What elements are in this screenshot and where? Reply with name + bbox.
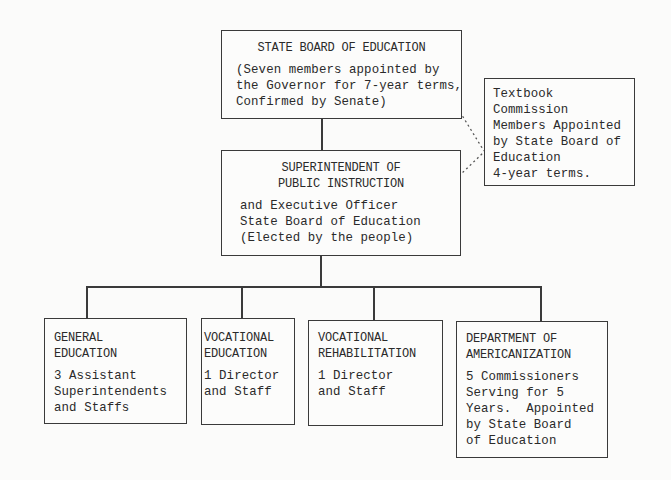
americanization-line-1: 5 Commissioners	[466, 369, 607, 385]
vocational-education-line-1: 1 Director	[204, 368, 294, 384]
general-education-line-3: and Staffs	[54, 400, 186, 416]
americanization-line-5: of Education	[466, 433, 607, 449]
americanization-line-3: Years. Appointed	[466, 401, 607, 417]
general-education-box: GENERAL EDUCATION 3 Assistant Superinten…	[44, 318, 187, 424]
vocational-education-title-1: VOCATIONAL	[204, 330, 294, 346]
general-education-title-1: GENERAL	[54, 330, 186, 346]
textbook-line-1: Textbook	[493, 86, 634, 102]
vocational-rehabilitation-box: VOCATIONAL REHABILITATION 1 Director and…	[308, 320, 443, 426]
americanization-title-2: AMERICANIZATION	[466, 347, 607, 363]
vocational-rehabilitation-line-1: 1 Director	[318, 368, 442, 384]
vocational-rehabilitation-line-2: and Staff	[318, 384, 442, 400]
superintendent-box: SUPERINTENDENT OF PUBLIC INSTRUCTION and…	[221, 150, 461, 256]
general-education-title-2: EDUCATION	[54, 346, 186, 362]
superintendent-title-2: PUBLIC INSTRUCTION	[222, 176, 460, 192]
superintendent-line-1: and Executive Officer	[240, 198, 460, 214]
textbook-line-3: Members Appointed	[493, 118, 634, 134]
textbook-line-5: Education	[493, 150, 634, 166]
superintendent-title-1: SUPERINTENDENT OF	[222, 160, 460, 176]
textbook-line-2: Commission	[493, 102, 634, 118]
vocational-education-line-2: and Staff	[204, 384, 294, 400]
state-board-line-2: the Governor for 7-year terms,	[236, 78, 461, 94]
superintendent-line-3: (Elected by the people)	[240, 230, 460, 246]
textbook-line-6: 4-year terms.	[493, 166, 634, 182]
textbook-commission-box: Textbook Commission Members Appointed by…	[484, 78, 635, 186]
americanization-box: DEPARTMENT OF AMERICANIZATION 5 Commissi…	[456, 321, 608, 458]
vocational-rehabilitation-title-1: VOCATIONAL	[318, 330, 442, 346]
superintendent-line-2: State Board of Education	[240, 214, 460, 230]
general-education-line-1: 3 Assistant	[54, 368, 186, 384]
textbook-line-4: by State Board of	[493, 134, 634, 150]
americanization-line-2: Serving for 5	[466, 385, 607, 401]
state-board-line-3: Confirmed by Senate)	[236, 94, 461, 110]
vocational-education-box: VOCATIONAL EDUCATION 1 Director and Staf…	[201, 318, 295, 425]
americanization-line-4: by State Board	[466, 417, 607, 433]
state-board-box: STATE BOARD OF EDUCATION (Seven members …	[221, 30, 462, 119]
americanization-title-1: DEPARTMENT OF	[466, 331, 607, 347]
general-education-line-2: Superintendents	[54, 384, 186, 400]
state-board-title: STATE BOARD OF EDUCATION	[222, 38, 461, 56]
state-board-line-1: (Seven members appointed by	[236, 62, 461, 78]
vocational-education-title-2: EDUCATION	[204, 346, 294, 362]
vocational-rehabilitation-title-2: REHABILITATION	[318, 346, 442, 362]
